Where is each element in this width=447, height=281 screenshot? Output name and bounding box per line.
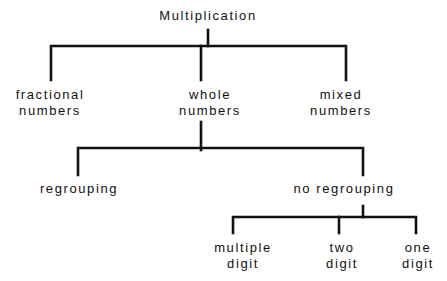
node-label-line2: digit <box>214 256 272 272</box>
node-label-line1: fractional <box>16 87 85 103</box>
node-label-line1: one <box>402 240 434 256</box>
connector-lines <box>0 0 447 281</box>
node-whole-numbers: whole numbers <box>179 87 241 119</box>
node-label-line1: mixed <box>310 87 372 103</box>
root-node-multiplication: Multiplication <box>159 8 257 24</box>
node-label-line2: digit <box>326 256 358 272</box>
node-multiple-digit: multiple digit <box>214 240 272 272</box>
node-label-line1: two <box>326 240 358 256</box>
node-label-line2: numbers <box>16 103 85 119</box>
node-no-regrouping: no regrouping <box>293 181 394 197</box>
node-label: no regrouping <box>293 181 394 197</box>
node-label-line2: numbers <box>179 103 241 119</box>
node-label: regrouping <box>40 181 118 197</box>
node-two-digit: two digit <box>326 240 358 272</box>
node-label-line1: multiple <box>214 240 272 256</box>
node-mixed-numbers: mixed numbers <box>310 87 372 119</box>
node-label-line2: digit <box>402 256 434 272</box>
node-regrouping: regrouping <box>40 181 118 197</box>
node-one-digit: one digit <box>402 240 434 272</box>
node-label-line2: numbers <box>310 103 372 119</box>
node-label: Multiplication <box>159 8 257 24</box>
node-fractional-numbers: fractional numbers <box>16 87 85 119</box>
node-label-line1: whole <box>179 87 241 103</box>
